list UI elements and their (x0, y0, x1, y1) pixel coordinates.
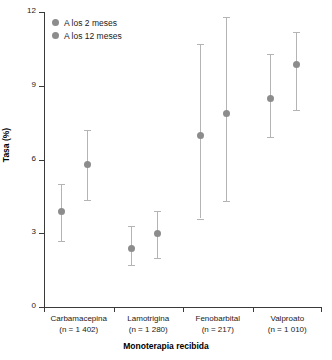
data-point-marker (197, 132, 204, 139)
data-point-marker (223, 110, 230, 117)
category-name: Carbamacepina (51, 314, 107, 323)
error-bar-cap (223, 17, 230, 18)
y-tick-label: 9 (32, 80, 36, 89)
x-tick (183, 307, 184, 312)
error-bar-cap (293, 110, 300, 111)
data-point-marker (84, 161, 91, 168)
legend-marker-icon (52, 19, 59, 26)
x-tick (114, 307, 115, 312)
data-point-marker (128, 245, 135, 252)
data-point-marker (293, 61, 300, 68)
y-axis-line (44, 12, 45, 308)
error-bar-cap (154, 258, 161, 259)
category-sample-size: (n = 1 402) (44, 324, 114, 335)
error-bar-cap (128, 265, 135, 266)
legend-marker-icon (52, 32, 59, 39)
error-bar-cap (293, 32, 300, 33)
error-bar-cap (267, 54, 274, 55)
y-tick: 12 (39, 12, 44, 13)
error-bar-chart: 036912 A los 2 meses A los 12 meses Carb… (0, 0, 332, 360)
legend-label: A los 2 meses (64, 18, 117, 28)
x-axis-title: Monoterapia recibida (0, 341, 332, 351)
error-bar-cap (223, 201, 230, 202)
error-bar-cap (197, 44, 204, 45)
error-bar-cap (58, 184, 65, 185)
category-sample-size: (n = 217) (183, 324, 253, 335)
y-tick-label: 12 (27, 6, 36, 15)
plot-area: 036912 (44, 12, 322, 307)
error-bar (296, 32, 297, 111)
data-point-marker (58, 208, 65, 215)
y-tick: 9 (39, 86, 44, 87)
chart-legend: A los 2 meses A los 12 meses (52, 16, 122, 42)
legend-label: A los 12 meses (64, 31, 122, 41)
error-bar-cap (84, 200, 91, 201)
x-category-label: Carbamacepina(n = 1 402) (44, 313, 114, 335)
category-name: Fenobarbital (196, 314, 240, 323)
y-tick-label: 3 (32, 227, 36, 236)
y-tick: 3 (39, 233, 44, 234)
x-category-label: Valproato(n = 1 010) (253, 313, 323, 335)
x-tick (253, 307, 254, 312)
data-point-marker (154, 230, 161, 237)
error-bar-cap (84, 130, 91, 131)
category-name: Valproato (270, 314, 304, 323)
category-sample-size: (n = 1 280) (114, 324, 184, 335)
category-sample-size: (n = 1 010) (253, 324, 323, 335)
x-category-label: Fenobarbital(n = 217) (183, 313, 253, 335)
legend-item-2-meses: A los 2 meses (52, 16, 122, 29)
category-name: Lamotrigina (127, 314, 169, 323)
y-tick: 6 (39, 160, 44, 161)
error-bar-cap (128, 226, 135, 227)
y-axis-title: Tasa (%) (1, 85, 11, 205)
error-bar-cap (154, 211, 161, 212)
y-tick-label: 6 (32, 154, 36, 163)
error-bar-cap (197, 219, 204, 220)
y-tick-label: 0 (32, 301, 36, 310)
x-tick (44, 307, 45, 312)
error-bar-cap (58, 241, 65, 242)
x-category-label: Lamotrigina(n = 1 280) (114, 313, 184, 335)
legend-item-12-meses: A los 12 meses (52, 29, 122, 42)
data-point-marker (267, 95, 274, 102)
x-tick (321, 307, 322, 312)
error-bar-cap (267, 137, 274, 138)
